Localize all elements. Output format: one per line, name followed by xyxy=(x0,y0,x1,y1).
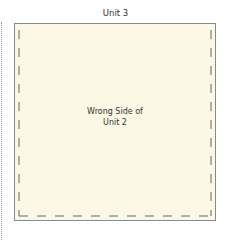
wrong-side-label: Wrong Side of Unit 2 xyxy=(15,107,215,128)
fabric-unit-square: Wrong Side of Unit 2 xyxy=(14,23,216,221)
dotted-fold-line xyxy=(1,22,2,240)
wrong-side-label-line2: Unit 2 xyxy=(15,118,215,129)
unit-3-label: Unit 3 xyxy=(14,8,217,18)
wrong-side-label-line1: Wrong Side of xyxy=(15,107,215,118)
